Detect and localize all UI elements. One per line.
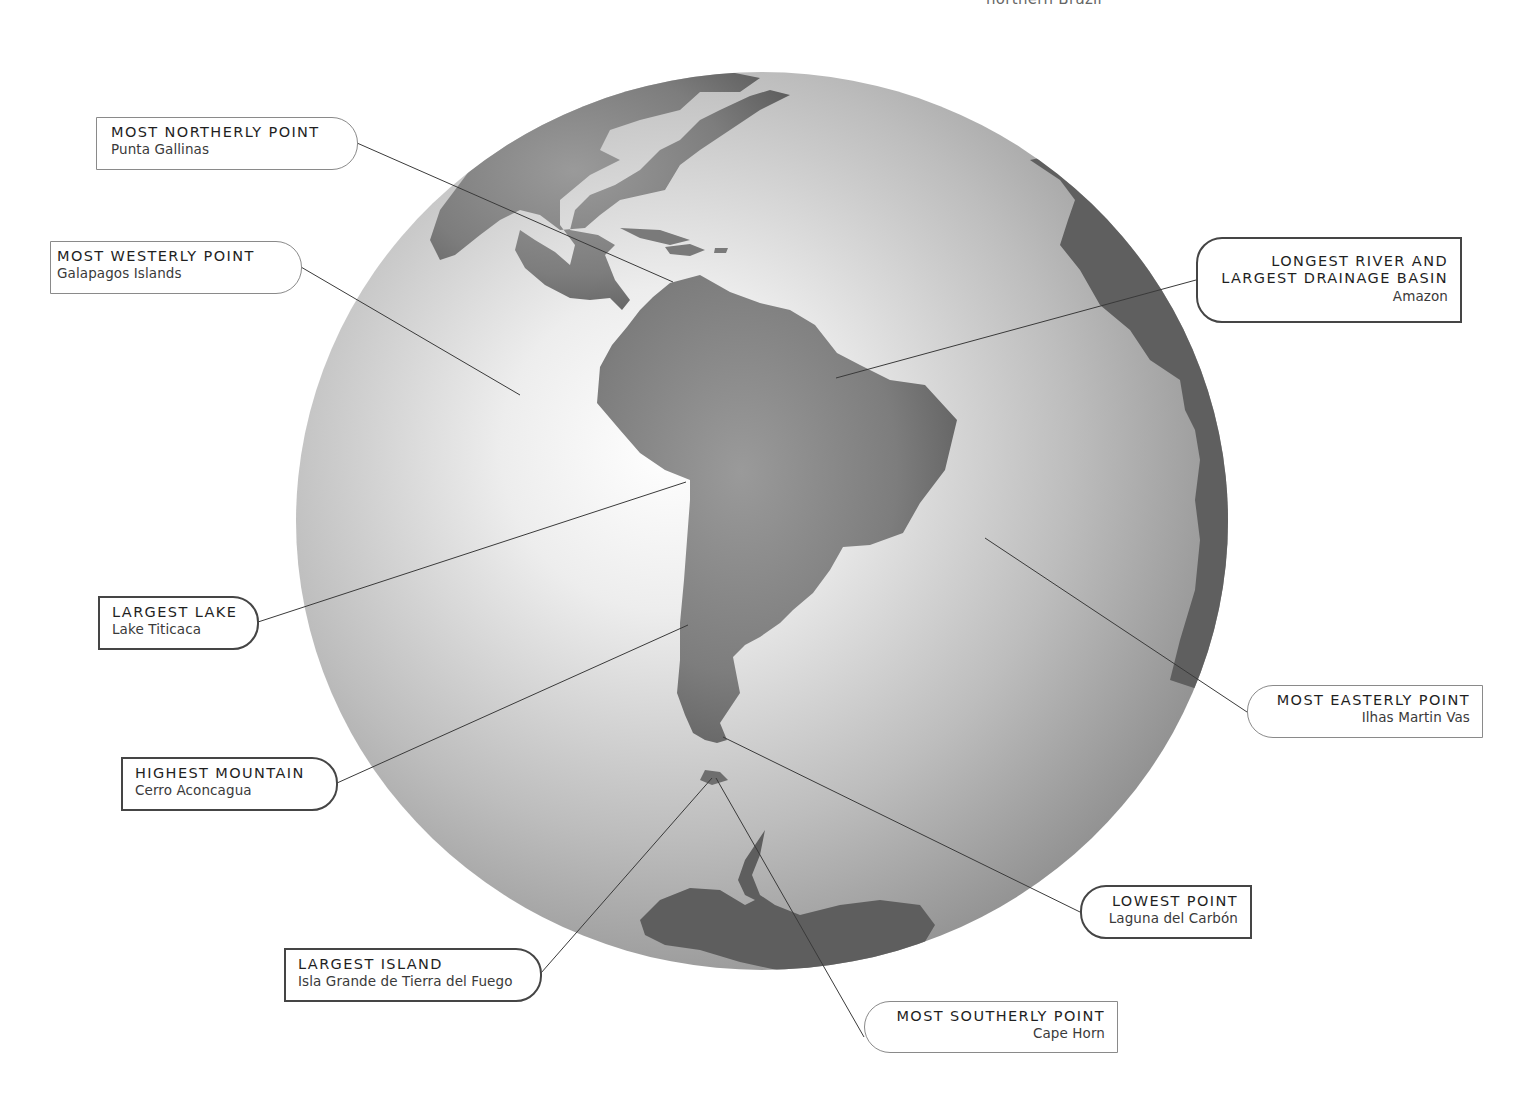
callout-subtitle: Galapagos Islands bbox=[57, 265, 287, 281]
callout-largest-island: LARGEST ISLAND Isla Grande de Tierra del… bbox=[284, 948, 542, 1002]
callout-subtitle: Cape Horn bbox=[879, 1025, 1105, 1041]
callout-most-northerly-point: MOST NORTHERLY POINT Punta Gallinas bbox=[96, 117, 358, 170]
callout-title-line2: LARGEST DRAINAGE BASIN bbox=[1212, 270, 1448, 287]
callout-subtitle: Lake Titicaca bbox=[112, 621, 243, 637]
callout-title-line1: LONGEST RIVER AND bbox=[1212, 253, 1448, 270]
callout-lowest-point: LOWEST POINT Laguna del Carbón bbox=[1080, 885, 1252, 939]
callout-most-easterly-point: MOST EASTERLY POINT Ilhas Martin Vas bbox=[1247, 685, 1483, 738]
callout-most-southerly-point: MOST SOUTHERLY POINT Cape Horn bbox=[864, 1001, 1118, 1053]
callout-largest-lake: LARGEST LAKE Lake Titicaca bbox=[98, 596, 259, 650]
callout-title: LARGEST LAKE bbox=[112, 604, 243, 621]
callout-title: MOST SOUTHERLY POINT bbox=[879, 1008, 1105, 1025]
callout-subtitle: Isla Grande de Tierra del Fuego bbox=[298, 973, 526, 989]
callout-longest-river: LONGEST RIVER AND LARGEST DRAINAGE BASIN… bbox=[1196, 237, 1462, 323]
callout-highest-mountain: HIGHEST MOUNTAIN Cerro Aconcagua bbox=[121, 757, 338, 811]
callout-most-westerly-point: MOST WESTERLY POINT Galapagos Islands bbox=[50, 241, 302, 294]
callout-title: LARGEST ISLAND bbox=[298, 956, 526, 973]
callout-title: MOST WESTERLY POINT bbox=[57, 248, 287, 265]
callout-title: MOST EASTERLY POINT bbox=[1262, 692, 1470, 709]
callout-subtitle: Ilhas Martin Vas bbox=[1262, 709, 1470, 725]
callout-title: LOWEST POINT bbox=[1096, 893, 1238, 910]
callout-title: HIGHEST MOUNTAIN bbox=[135, 765, 322, 782]
callout-subtitle: Punta Gallinas bbox=[111, 141, 343, 157]
callout-subtitle: Cerro Aconcagua bbox=[135, 782, 322, 798]
callout-subtitle: Laguna del Carbón bbox=[1096, 910, 1238, 926]
callout-title: MOST NORTHERLY POINT bbox=[111, 124, 343, 141]
callout-subtitle: Amazon bbox=[1212, 288, 1448, 304]
